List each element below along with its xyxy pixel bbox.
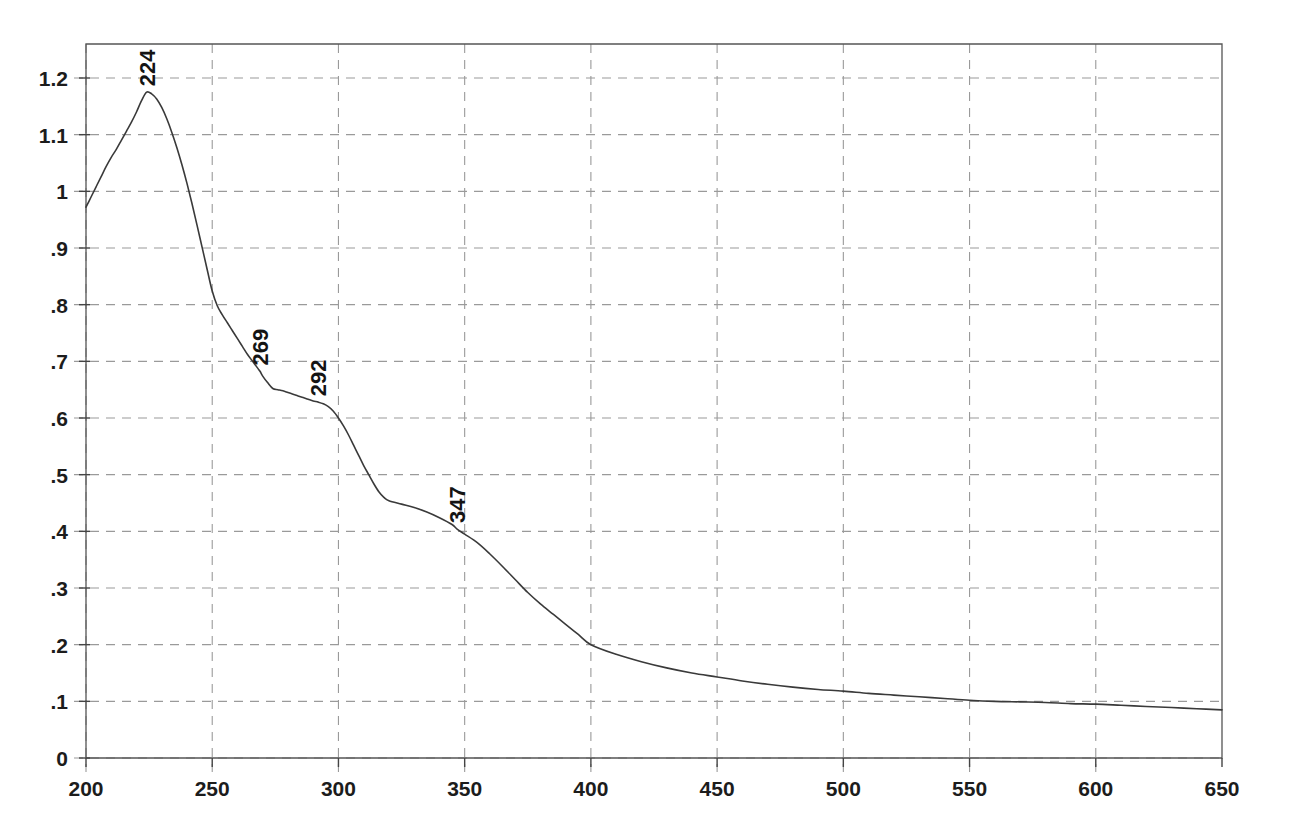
spectrum-plot-area: 0.1.2.3.4.5.6.7.8.911.11.2 2002503003504… [0, 0, 1290, 840]
y-tick-label: 1 [56, 180, 68, 203]
y-tick-label: .3 [50, 577, 68, 600]
x-tick-label: 450 [700, 777, 735, 800]
y-tick-label: .7 [50, 350, 68, 373]
peak-label-347: 347 [445, 486, 470, 523]
y-tick-label: .4 [50, 520, 68, 543]
x-tick-label: 400 [573, 777, 608, 800]
x-tick-label: 200 [68, 777, 103, 800]
x-tick-label: 300 [321, 777, 356, 800]
y-tick-label: .2 [50, 634, 68, 657]
y-tick-label: 1.2 [39, 67, 68, 90]
y-tick-label: .6 [50, 407, 68, 430]
x-tick-label: 600 [1078, 777, 1113, 800]
uv-vis-spectrum-chart: 0.1.2.3.4.5.6.7.8.911.11.2 2002503003504… [0, 0, 1290, 840]
y-tick-label: 1.1 [39, 124, 69, 147]
plot-border [86, 44, 1222, 758]
x-tick-label: 500 [826, 777, 861, 800]
y-tick-label: .1 [50, 690, 68, 713]
x-axis-tick-labels: 200250300350400450500550600650 [68, 777, 1239, 800]
peak-label-224: 224 [135, 49, 160, 86]
x-tick-label: 550 [952, 777, 987, 800]
peak-label-292: 292 [306, 359, 331, 396]
y-tick-label: .5 [50, 464, 68, 487]
plot-frame [86, 44, 1222, 758]
y-tick-label: 0 [56, 747, 68, 770]
spectrum-line [86, 92, 1222, 710]
absorbance-curve [86, 92, 1222, 710]
y-axis-tick-labels: 0.1.2.3.4.5.6.7.8.911.11.2 [39, 67, 69, 770]
peak-annotations: 224269292347 [135, 49, 471, 523]
x-tick-label: 250 [195, 777, 230, 800]
y-tick-label: .9 [50, 237, 68, 260]
x-tick-label: 650 [1204, 777, 1239, 800]
y-tick-label: .8 [50, 294, 68, 317]
x-tick-label: 350 [447, 777, 482, 800]
peak-label-269: 269 [248, 329, 273, 366]
